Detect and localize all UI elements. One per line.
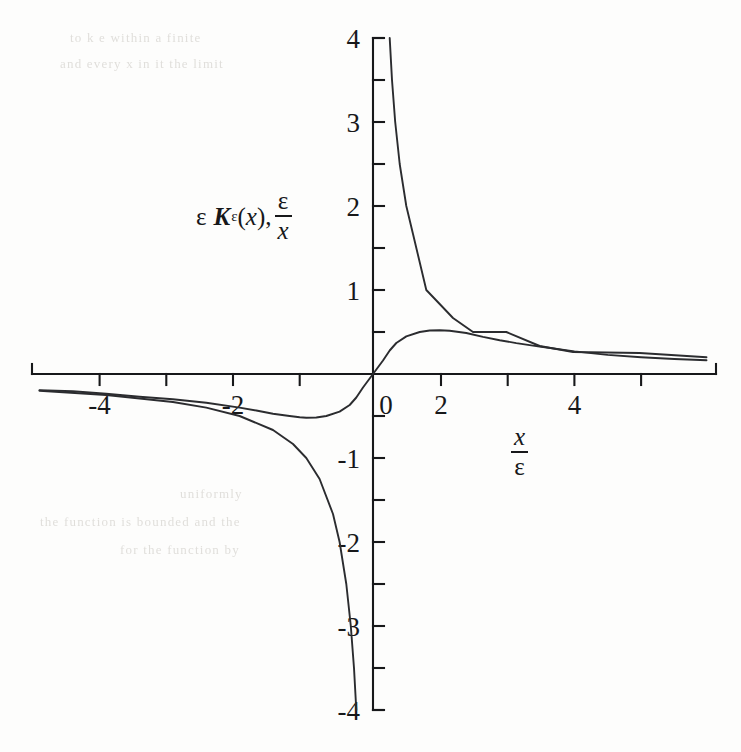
y-tick-label: 2 <box>347 192 361 222</box>
y-label-paren-open: ( <box>238 204 246 229</box>
y-tick-label: -3 <box>338 612 361 642</box>
x-tick-label: 0 <box>379 390 393 420</box>
y-label-fraction: ε x <box>275 188 292 245</box>
y-tick-label: 1 <box>347 276 361 306</box>
figure-page: to k e within a finite and every x in it… <box>0 0 741 752</box>
y-label-fraction-numerator: ε <box>275 188 292 214</box>
x-axis-ticks <box>100 374 642 385</box>
y-label-comma: , <box>265 204 271 229</box>
x-axis-label: x ε <box>508 424 528 481</box>
y-label-paren-close: ) <box>257 204 265 229</box>
x-tick-label: 2 <box>434 390 448 420</box>
y-tick-label: -4 <box>338 696 361 726</box>
x-label-fraction-numerator: x <box>511 424 528 450</box>
x-tick-label: 4 <box>568 390 582 420</box>
curve-hyperbola-negative-branch <box>40 391 357 710</box>
x-label-fraction-denominator: ε <box>511 454 528 480</box>
y-tick-label: -1 <box>338 444 361 474</box>
x-tick-labels: -4 -2 0 2 4 <box>88 390 581 420</box>
y-axis-label: εKε(x), ε x <box>196 188 292 245</box>
curve-hyperbola-positive-branch <box>390 38 707 357</box>
y-tick-label: 3 <box>347 108 361 138</box>
y-label-argument: x <box>246 204 257 229</box>
y-label-fraction-denominator: x <box>275 218 292 244</box>
function-plot: -4 -2 0 2 4 4 3 2 1 -1 -2 -3 -4 <box>0 0 741 752</box>
y-tick-label: 4 <box>347 24 361 54</box>
y-label-epsilon: ε <box>196 204 207 229</box>
x-label-fraction: x ε <box>511 424 528 481</box>
y-label-K: K <box>207 204 231 229</box>
